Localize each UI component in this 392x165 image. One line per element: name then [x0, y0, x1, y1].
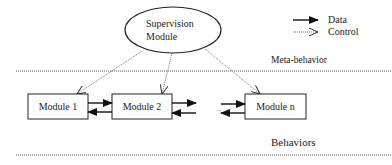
meta-behavior-label: Meta-behavior — [271, 56, 327, 66]
control-arrow-2 — [162, 53, 172, 94]
ellipsis-mark: ... — [216, 106, 221, 113]
behaviors-label: Behaviors — [271, 137, 316, 148]
legend-data-label: Data — [328, 15, 347, 25]
supervision-module-ellipse — [125, 7, 221, 53]
module-n-label: Module n — [245, 94, 306, 119]
module-2-label: Module 2 — [112, 94, 172, 119]
control-arrow-1 — [77, 51, 142, 94]
legend-control-label: Control — [328, 27, 359, 37]
supervision-label-line1: Supervision — [146, 19, 194, 29]
module-1-label: Module 1 — [28, 94, 88, 119]
supervision-label-line2: Module — [146, 32, 177, 42]
